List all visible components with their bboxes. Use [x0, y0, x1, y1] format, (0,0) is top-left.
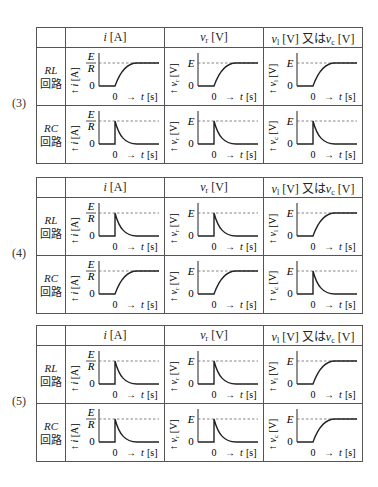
svg-text:↑ vc [V]: ↑ vc [V] [267, 121, 280, 152]
svg-text:→: → [126, 389, 136, 400]
time-axis-label: 0 [311, 447, 316, 458]
header-current: i [A] [66, 178, 165, 198]
y-axis-label: ↑ i [A] [69, 125, 80, 152]
svg-text:[s]: [s] [246, 389, 257, 400]
circuit-label: RC 回路 [37, 106, 66, 164]
svg-text:→: → [324, 149, 334, 160]
time-axis-label: 0 [311, 91, 316, 102]
waveform-curve-rise [297, 361, 357, 384]
waveform-plot: ↑ vr [V] E 0 0 → t [s] [165, 48, 263, 105]
plot-vl: ↑ vl [V] E 0 0 → t [s] [264, 346, 363, 404]
svg-text:t: t [240, 241, 243, 252]
time-axis-label: 0 [212, 299, 217, 310]
waveform-curve-decay [99, 361, 159, 384]
svg-text:R: R [87, 120, 95, 132]
waveform-table: i [A] vr [V] vl [V] 又はvc [V] RL 回路 ↑ i [… [36, 177, 363, 314]
svg-text:[s]: [s] [147, 91, 158, 102]
svg-text:[s]: [s] [147, 241, 158, 252]
y-axis-label: ↑ vl [V] [267, 362, 280, 392]
circuit-label: RL 回路 [37, 48, 66, 106]
row-rc: RC 回路 ↑ i [A] E R 0 0 → t [s] ↑ vr [V] E… [37, 106, 363, 164]
y-axis-label: ↑ vl [V] [267, 214, 280, 244]
svg-text:[s]: [s] [246, 241, 257, 252]
header-blank [37, 178, 66, 198]
svg-text:↑ i [A]: ↑ i [A] [69, 365, 80, 392]
svg-text:t: t [141, 299, 144, 310]
row-rl: RL 回路 ↑ i [A] E R 0 0 → t [s] ↑ vr [V] E… [37, 346, 363, 404]
row-rl: RL 回路 ↑ i [A] E R 0 0 → t [s] ↑ vr [V] E… [37, 48, 363, 106]
svg-text:t: t [141, 389, 144, 400]
svg-text:[s]: [s] [345, 91, 356, 102]
svg-text:R: R [87, 62, 95, 74]
origin-zero: 0 [287, 435, 293, 447]
level-E: E [286, 265, 294, 277]
plot-vr: ↑ vr [V] E 0 0 → t [s] [165, 346, 264, 404]
waveform-curve-decay [297, 121, 357, 144]
plot-vc: ↑ vc [V] E 0 0 → t [s] [264, 404, 363, 462]
time-axis-label: 0 [113, 447, 118, 458]
svg-text:↑ vr [V]: ↑ vr [V] [168, 419, 181, 450]
waveform-table: i [A] vr [V] vl [V] 又はvc [V] RL 回路 ↑ i [… [36, 325, 363, 462]
header-blank [37, 28, 66, 48]
svg-text:R: R [87, 270, 95, 282]
plot-current: ↑ i [A] E R 0 0 → t [s] [66, 346, 165, 404]
waveform-plot: ↑ vc [V] E 0 0 → t [s] [264, 106, 362, 163]
option-label: (5) [5, 394, 33, 409]
row-rl: RL 回路 ↑ i [A] E R 0 0 → t [s] ↑ vr [V] E… [37, 198, 363, 256]
time-axis-label: 0 [311, 241, 316, 252]
svg-text:↑ vl [V]: ↑ vl [V] [267, 362, 280, 392]
origin-zero: 0 [287, 137, 293, 149]
origin-zero: 0 [287, 79, 293, 91]
y-axis-label: ↑ vr [V] [168, 213, 181, 244]
option-label: (3) [5, 96, 33, 111]
time-axis-label: 0 [212, 389, 217, 400]
level-E: E [286, 207, 294, 219]
time-axis-label: 0 [113, 91, 118, 102]
plot-vr: ↑ vr [V] E 0 0 → t [s] [165, 404, 264, 462]
level-E: E [286, 413, 294, 425]
svg-text:[s]: [s] [147, 447, 158, 458]
svg-text:→: → [126, 241, 136, 252]
svg-text:↑ vr [V]: ↑ vr [V] [168, 121, 181, 152]
plot-current: ↑ i [A] E R 0 0 → t [s] [66, 404, 165, 462]
waveform-plot: ↑ vr [V] E 0 0 → t [s] [165, 106, 263, 163]
svg-text:→: → [225, 447, 235, 458]
svg-text:t: t [240, 149, 243, 160]
level-E: E [187, 115, 195, 127]
time-axis-label: 0 [212, 447, 217, 458]
waveform-plot: ↑ vc [V] E 0 0 → t [s] [264, 256, 362, 313]
y-axis-label: ↑ vl [V] [267, 64, 280, 94]
origin-zero: 0 [188, 79, 194, 91]
svg-text:→: → [225, 91, 235, 102]
y-axis-label: ↑ vr [V] [168, 361, 181, 392]
svg-text:→: → [126, 91, 136, 102]
svg-text:[s]: [s] [345, 241, 356, 252]
svg-text:[s]: [s] [345, 149, 356, 160]
svg-text:t: t [339, 447, 342, 458]
header-current: i [A] [66, 28, 165, 48]
svg-text:t: t [141, 149, 144, 160]
y-axis-label: ↑ vc [V] [267, 271, 280, 302]
svg-text:t: t [240, 447, 243, 458]
svg-text:→: → [324, 389, 334, 400]
svg-text:→: → [225, 149, 235, 160]
y-axis-label: ↑ i [A] [69, 275, 80, 302]
svg-text:↑ i [A]: ↑ i [A] [69, 423, 80, 450]
time-axis-label: 0 [311, 389, 316, 400]
svg-text:↑ i [A]: ↑ i [A] [69, 67, 80, 94]
time-axis-label: 0 [212, 241, 217, 252]
plot-vr: ↑ vr [V] E 0 0 → t [s] [165, 106, 264, 164]
svg-text:→: → [324, 447, 334, 458]
plot-vr: ↑ vr [V] E 0 0 → t [s] [165, 198, 264, 256]
level-E-over-R: E [87, 200, 95, 212]
waveform-plot: ↑ vr [V] E 0 0 → t [s] [165, 198, 263, 255]
svg-text:t: t [339, 389, 342, 400]
svg-text:R: R [87, 212, 95, 224]
svg-text:→: → [126, 149, 136, 160]
waveform-plot: ↑ i [A] E R 0 0 → t [s] [66, 106, 164, 163]
origin-zero: 0 [89, 137, 95, 149]
svg-text:→: → [324, 299, 334, 310]
time-axis-label: 0 [113, 389, 118, 400]
plot-vr: ↑ vr [V] E 0 0 → t [s] [165, 48, 264, 106]
plot-vc: ↑ vc [V] E 0 0 → t [s] [264, 106, 363, 164]
